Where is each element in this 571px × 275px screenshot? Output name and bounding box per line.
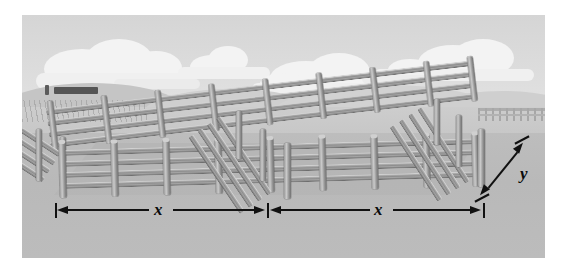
corral-illustration: x x y xyxy=(22,15,545,258)
dimension-line xyxy=(393,209,471,211)
arrowhead-right xyxy=(470,206,481,214)
x-dimension-right-label: x xyxy=(374,201,383,218)
dimension-tick xyxy=(267,203,269,218)
y-dimension: y xyxy=(476,139,540,205)
arrowhead-right xyxy=(254,206,265,214)
dimension-line xyxy=(488,151,519,188)
x-dimension-left-label: x xyxy=(154,201,163,218)
right-end-fence xyxy=(434,99,482,187)
dimension-line xyxy=(280,209,370,211)
dimension-line xyxy=(67,209,149,211)
y-dimension-label: y xyxy=(520,165,528,182)
dimension-line xyxy=(173,209,255,211)
dimension-tick xyxy=(483,203,485,218)
center-divider-fence xyxy=(234,107,298,199)
figure-canvas: x x y xyxy=(0,0,571,275)
